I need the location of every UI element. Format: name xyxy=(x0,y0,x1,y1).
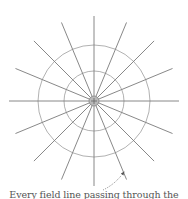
positive-charge xyxy=(89,96,99,106)
field-lines-diagram xyxy=(0,0,188,199)
field-line xyxy=(94,41,154,101)
dotted-pointer-icon xyxy=(103,172,124,190)
caption-pointer-arrow xyxy=(103,172,124,190)
field-line xyxy=(94,101,154,161)
field-line xyxy=(34,41,94,101)
field-line xyxy=(34,101,94,161)
figure-caption: Every field line passing through the xyxy=(0,189,188,199)
